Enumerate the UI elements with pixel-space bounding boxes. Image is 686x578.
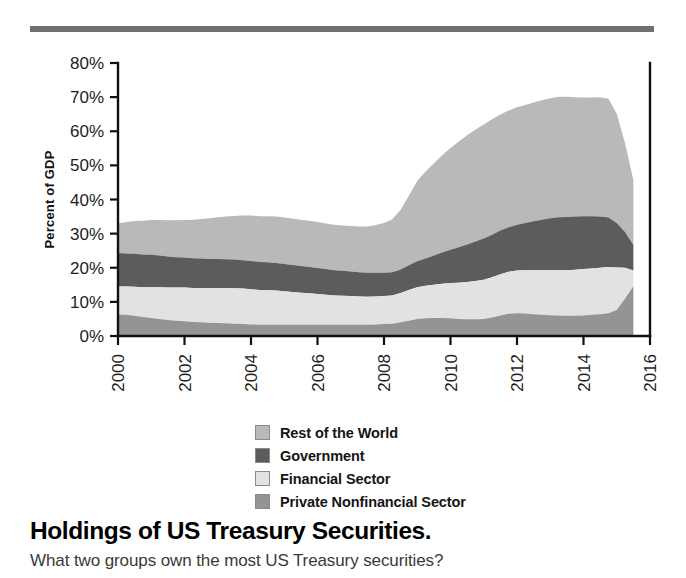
legend-item-private-nonfinancial-sector[interactable]: Private Nonfinancial Sector xyxy=(255,490,585,513)
legend-swatch-government xyxy=(255,448,270,463)
y-tick-label-20%: 20% xyxy=(70,259,104,278)
legend-swatch-financial-sector xyxy=(255,471,270,486)
y-tick-label-40%: 40% xyxy=(70,191,104,210)
area-series-group xyxy=(118,97,633,336)
legend-item-government[interactable]: Government xyxy=(255,444,585,467)
legend-swatch-rest-of-the-world xyxy=(255,425,270,440)
y-tick-label-70%: 70% xyxy=(70,88,104,107)
chart-svg: 0%10%20%30%40%50%60%70%80% 2000200220042… xyxy=(0,38,686,420)
x-tick-label-2000: 2000 xyxy=(109,354,128,392)
y-tick-label-10%: 10% xyxy=(70,293,104,312)
x-tick-label-2014: 2014 xyxy=(575,354,594,392)
y-tick-label-0%: 0% xyxy=(79,327,104,346)
x-tick-label-2008: 2008 xyxy=(375,354,394,392)
y-tick-label-80%: 80% xyxy=(70,54,104,73)
y-tick-label-50%: 50% xyxy=(70,156,104,175)
chart-title: Holdings of US Treasury Securities. xyxy=(30,517,431,545)
x-tick-label-2006: 2006 xyxy=(309,354,328,392)
y-axis-ticks: 0%10%20%30%40%50%60%70%80% xyxy=(70,54,118,346)
figure: 0%10%20%30%40%50%60%70%80% 2000200220042… xyxy=(0,0,686,578)
chart-legend: Rest of the World Government Financial S… xyxy=(255,421,585,513)
y-axis-label: Percent of GDP xyxy=(42,150,57,248)
x-tick-label-2004: 2004 xyxy=(242,354,261,392)
legend-label-government: Government xyxy=(280,448,364,464)
x-tick-label-2012: 2012 xyxy=(508,354,527,392)
legend-label-financial-sector: Financial Sector xyxy=(280,471,390,487)
y-tick-label-60%: 60% xyxy=(70,122,104,141)
legend-label-rest-of-the-world: Rest of the World xyxy=(280,425,398,441)
stacked-area-chart: 0%10%20%30%40%50%60%70%80% 2000200220042… xyxy=(0,38,686,420)
legend-swatch-private-nonfinancial-sector xyxy=(255,494,270,509)
legend-label-private-nonfinancial-sector: Private Nonfinancial Sector xyxy=(280,494,466,510)
x-tick-label-2010: 2010 xyxy=(442,354,461,392)
chart-caption: What two groups own the most US Treasury… xyxy=(30,551,443,571)
x-tick-label-2002: 2002 xyxy=(176,354,195,392)
x-tick-label-2016: 2016 xyxy=(641,354,660,392)
top-rule-divider xyxy=(30,26,654,32)
y-tick-label-30%: 30% xyxy=(70,225,104,244)
legend-item-rest-of-the-world[interactable]: Rest of the World xyxy=(255,421,585,444)
legend-item-financial-sector[interactable]: Financial Sector xyxy=(255,467,585,490)
x-axis-ticks: 200020022004200620082010201220142016 xyxy=(109,336,660,392)
